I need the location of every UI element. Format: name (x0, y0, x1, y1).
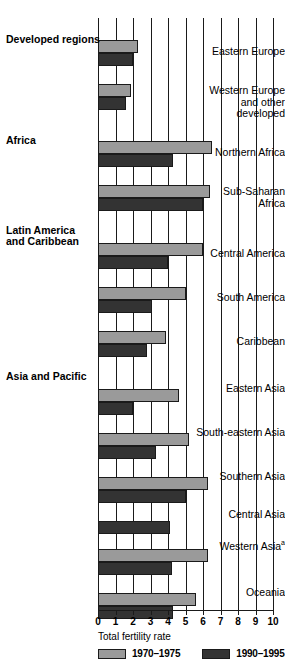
group-header-africa: Africa (6, 135, 36, 147)
bar-eastern-asia-1970 (98, 389, 179, 402)
fertility-rate-bar-chart: 0 1 2 3 4 5 6 7 8 9 10 Developed regions… (0, 0, 285, 668)
bar-central-america-1970 (98, 243, 203, 256)
x-tick-10 (273, 610, 274, 615)
group-header-latin-america-line2: and Caribbean (6, 236, 79, 248)
bar-oceania-1970 (98, 593, 196, 606)
group-header-asia-and-pacific: Asia and Pacific (6, 371, 87, 383)
row-label-western-asia: Western Asiaa (193, 537, 285, 552)
bar-central-america-1990 (98, 256, 168, 269)
row-label-central-america: Central America (193, 248, 285, 260)
x-tick-9 (256, 610, 257, 615)
bar-western-asia-1970 (98, 549, 208, 562)
row-label-caribbean: Caribbean (193, 336, 285, 348)
row-label-sub-saharan-line2: Africa (193, 198, 285, 210)
legend-swatch-1970-1975 (98, 649, 126, 659)
x-tick-6 (203, 610, 204, 615)
x-tick-1 (116, 610, 117, 615)
x-axis-title: Total fertility rate (98, 631, 171, 642)
x-tick-0 (98, 610, 99, 615)
x-tick-8 (238, 610, 239, 615)
bar-western-asia-1990 (98, 562, 172, 575)
bar-southern-asia-1970 (98, 477, 208, 490)
bar-western-europe-1970 (98, 84, 131, 97)
bar-caribbean-1990 (98, 344, 147, 357)
bar-south-america-1970 (98, 287, 186, 300)
legend: 1970–1975 1990–1995 (98, 648, 285, 659)
bar-southern-asia-1990 (98, 490, 186, 503)
row-label-central-asia: Central Asia (193, 509, 285, 521)
row-label-sub-saharan-line1: Sub-Saharan (193, 186, 285, 198)
legend-item-1970-1975: 1970–1975 (98, 648, 180, 659)
row-label-western-europe-line1: Western Europe (193, 85, 285, 97)
legend-item-1990-1995: 1990–1995 (202, 648, 284, 659)
x-tick-7 (221, 610, 222, 615)
gridline-5 (186, 18, 187, 610)
bar-sub-saharan-africa-1990 (98, 198, 203, 211)
legend-label-1970-1975: 1970–1975 (132, 648, 180, 659)
row-label-western-asia-text: Western Asia (219, 540, 281, 552)
row-label-oceania: Oceania (193, 587, 285, 599)
row-label-northern-africa: Northern Africa (193, 147, 285, 159)
bar-south-eastern-asia-1990 (98, 446, 156, 459)
x-tick-3 (151, 610, 152, 615)
x-tick-2 (133, 610, 134, 615)
row-label-western-europe-line3: developed (193, 108, 285, 120)
bar-south-america-1990 (98, 300, 152, 313)
legend-swatch-1990-1995 (202, 649, 230, 659)
bar-caribbean-1970 (98, 331, 166, 344)
bar-eastern-asia-1990 (98, 402, 133, 415)
row-label-southern-asia: Southern Asia (193, 471, 285, 483)
bar-northern-africa-1990 (98, 154, 173, 167)
bar-central-asia-1990 (98, 521, 170, 534)
x-tick-5 (186, 610, 187, 615)
x-tick-label-10: 10 (263, 616, 283, 627)
bar-south-eastern-asia-1970 (98, 433, 189, 446)
row-label-south-america: South America (193, 292, 285, 304)
row-label-eastern-asia: Eastern Asia (193, 383, 285, 395)
row-label-eastern-europe: Eastern Europe (193, 46, 285, 58)
legend-label-1990-1995: 1990–1995 (236, 648, 284, 659)
bar-western-europe-1990 (98, 97, 126, 110)
footnote-marker-a: a (281, 539, 285, 546)
x-tick-4 (168, 610, 169, 615)
row-label-south-eastern-asia: South-eastern Asia (193, 427, 285, 439)
group-header-developed-regions: Developed regions (6, 34, 100, 46)
bar-eastern-europe-1990 (98, 53, 133, 66)
bar-eastern-europe-1970 (98, 40, 138, 53)
